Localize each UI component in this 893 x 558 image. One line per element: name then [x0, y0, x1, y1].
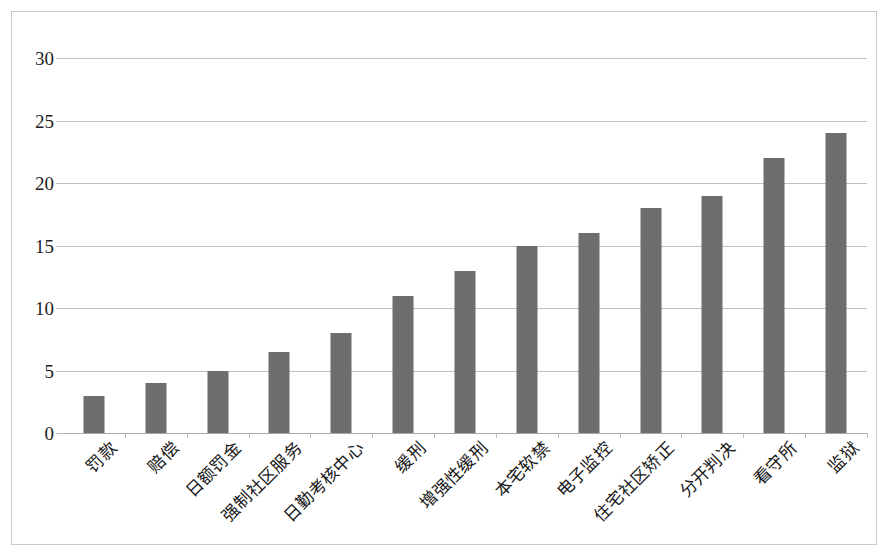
x-tick-label: 看守所 [751, 439, 801, 489]
bar [764, 158, 785, 433]
bar [455, 271, 476, 434]
x-tick-mark [249, 433, 250, 438]
x-tick-label: 罚款 [83, 439, 120, 476]
y-tick-mark [56, 183, 63, 184]
y-tick-label: 0 [45, 424, 55, 443]
y-tick-mark [56, 308, 63, 309]
chart-figure: 051015202530 罚款赔偿日额罚金强制社区服务日勤考核中心缓刑增强性缓刑… [11, 11, 877, 545]
x-tick-mark [681, 433, 682, 438]
x-tick-mark [620, 433, 621, 438]
y-tick-mark [56, 433, 63, 434]
y-tick-mark [56, 121, 63, 122]
y-tick-label: 5 [45, 361, 55, 380]
x-tick-label: 电子监控 [553, 439, 615, 501]
bar [702, 196, 723, 434]
bar [269, 352, 290, 433]
x-tick-label: 本宅软禁 [492, 439, 554, 501]
bar [640, 208, 661, 433]
axis-baseline [63, 433, 867, 434]
x-tick-mark [372, 433, 373, 438]
x-tick-label: 日额罚金 [182, 439, 244, 501]
bar [826, 133, 847, 433]
bar [516, 246, 537, 434]
y-tick-mark [56, 371, 63, 372]
x-tick-mark [310, 433, 311, 438]
x-tick-label: 分开判决 [677, 439, 739, 501]
x-tick-label: 赔偿 [145, 439, 182, 476]
bar [578, 233, 599, 433]
bars-group [63, 32, 867, 433]
x-tick-mark [496, 433, 497, 438]
x-tick-mark [434, 433, 435, 438]
bar [393, 296, 414, 434]
x-tick-mark [867, 433, 868, 438]
x-tick-label: 缓刑 [393, 439, 430, 476]
y-tick-label: 30 [35, 49, 54, 68]
y-tick-mark [56, 246, 63, 247]
plot-area: 051015202530 [63, 32, 867, 433]
bar [83, 396, 104, 434]
y-tick-label: 25 [35, 111, 54, 130]
y-tick-label: 15 [35, 236, 54, 255]
y-tick-mark [56, 58, 63, 59]
bar [207, 371, 228, 434]
x-tick-mark [125, 433, 126, 438]
x-tick-mark [187, 433, 188, 438]
y-tick-label: 20 [35, 174, 54, 193]
x-tick-mark [743, 433, 744, 438]
x-tick-mark [805, 433, 806, 438]
bar [331, 333, 352, 433]
x-tick-mark [558, 433, 559, 438]
bar [145, 383, 166, 433]
x-tick-label: 监狱 [825, 439, 862, 476]
y-tick-label: 10 [35, 299, 54, 318]
